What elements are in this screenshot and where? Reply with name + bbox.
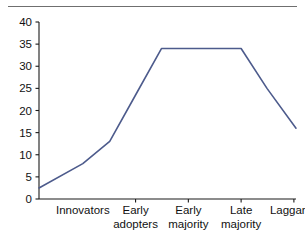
x-axis-tick-label: Early <box>175 204 201 216</box>
y-axis-tick-label: 0 <box>26 193 32 205</box>
x-axis-tick-label: adopters <box>113 218 158 230</box>
x-axis-tick-label: Late <box>230 204 252 216</box>
y-axis-tick-label: 20 <box>19 105 32 117</box>
x-axis-tick-label: majority <box>168 218 209 230</box>
y-axis-tick-label: 15 <box>19 127 32 139</box>
x-axis-tick-label: Innovators <box>56 204 110 216</box>
y-axis-tick-label: 25 <box>19 82 32 94</box>
x-axis-tick-label: majority <box>221 218 262 230</box>
adoption-curve-chart: 0510152025303540InnovatorsEarlyadoptersE… <box>0 0 305 233</box>
adoption-curve-line <box>39 49 296 188</box>
y-axis-tick-label: 35 <box>19 38 32 50</box>
y-axis-tick-label: 40 <box>19 16 32 28</box>
x-axis-tick-label: Laggards <box>270 204 305 216</box>
x-axis-tick-label: Early <box>122 204 148 216</box>
y-axis-tick-label: 5 <box>26 171 32 183</box>
y-axis-tick-label: 30 <box>19 60 32 72</box>
chart-figure: 0510152025303540InnovatorsEarlyadoptersE… <box>0 0 305 233</box>
y-axis-tick-label: 10 <box>19 149 32 161</box>
